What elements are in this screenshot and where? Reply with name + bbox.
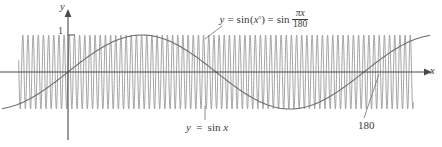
sine-formula-equals: = — [196, 121, 202, 133]
x-axis-label: x — [430, 66, 435, 77]
degree-formula-fraction: πx 180 — [292, 9, 308, 30]
degree-formula-sin-2: sin — [277, 14, 290, 25]
sine-formula-y: y — [186, 121, 191, 133]
x-axis-label-text: x — [430, 65, 435, 76]
y-axis-tick-value: 1 — [58, 25, 63, 36]
y-axis-label: y — [60, 2, 65, 13]
degree-formula-equals-1: = — [227, 14, 233, 25]
y-axis-tick-label: 1 — [58, 26, 63, 36]
y-axis-arrowhead — [65, 9, 72, 17]
sine-formula-sin: sin — [208, 121, 221, 133]
sine-formula-label: y = sin x — [186, 122, 228, 133]
degree-formula-close-paren: ) — [261, 14, 265, 25]
degree-formula-label: y = sin ( x ° ) = sin πx 180 — [219, 9, 308, 30]
leader-line-one-eighty — [364, 74, 379, 118]
y-axis-label-text: y — [60, 1, 65, 12]
degree-formula-y: y — [220, 14, 225, 25]
sine-comparison-figure: y x 1 y = sin ( x ° ) = sin πx 180 y = s… — [0, 0, 442, 147]
fraction-numerator-x: x — [300, 8, 304, 18]
fraction-numerator: πx — [295, 9, 306, 19]
sine-formula-x: x — [223, 121, 228, 133]
degree-formula-equals-2: = — [268, 14, 274, 25]
one-eighty-annotation: 180 — [358, 120, 375, 131]
one-eighty-value: 180 — [358, 119, 375, 131]
degree-formula-sin-1: sin — [237, 14, 250, 25]
fraction-denominator: 180 — [292, 20, 308, 30]
